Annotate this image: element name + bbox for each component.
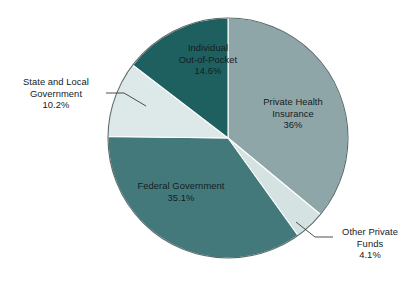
slice-label-value: 14.6%: [156, 65, 260, 77]
slice-label-name-line2: Government: [4, 88, 108, 100]
slice-label-value: 36%: [245, 119, 341, 131]
slice-label-value: 4.1%: [330, 249, 410, 261]
slice-label-federal-government: Federal Government 35.1%: [121, 180, 241, 203]
slice-label-name-line1: Federal Government: [121, 180, 241, 192]
slice-label-name-line2: Funds: [330, 238, 410, 250]
slice-label-name-line2: Out-of-Pocket: [156, 54, 260, 66]
slice-label-name-line1: Private Health: [245, 96, 341, 108]
slice-label-name-line1: Other Private: [330, 226, 410, 238]
slice-label-value: 35.1%: [121, 192, 241, 204]
slice-label-name-line2: Insurance: [245, 108, 341, 120]
slice-label-name-line1: Individual: [156, 42, 260, 54]
slice-label-other-private-funds: Other Private Funds 4.1%: [330, 226, 410, 261]
pie-chart: Private Health Insurance 36% Individual …: [0, 0, 412, 281]
slice-label-value: 10.2%: [4, 99, 108, 111]
slice-label-state-and-local-government: State and Local Government 10.2%: [4, 76, 108, 111]
slice-label-private-health-insurance: Private Health Insurance 36%: [245, 96, 341, 131]
slice-label-name-line1: State and Local: [4, 76, 108, 88]
slice-label-individual-out-of-pocket: Individual Out-of-Pocket 14.6%: [156, 42, 260, 77]
